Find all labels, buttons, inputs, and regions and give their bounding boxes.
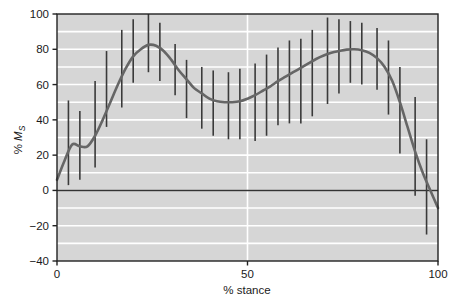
y-tick-label: −40: [29, 255, 49, 267]
figure-container: −40−20020406080100 050100 % stance % MS: [0, 0, 457, 303]
y-tick-label: −20: [29, 220, 49, 232]
y-axis-tick-labels: −40−20020406080100: [29, 8, 49, 267]
y-tick-label: 20: [36, 149, 49, 161]
y-tick-label: 60: [36, 79, 49, 91]
y-tick-label: 80: [36, 43, 49, 55]
x-tick-label: 50: [241, 268, 254, 280]
y-axis-title-symbol: M: [12, 131, 24, 141]
y-axis-title-prefix: %: [12, 141, 24, 154]
y-axis-title-subscript: S: [17, 125, 27, 131]
x-axis-title: % stance: [223, 284, 270, 296]
chart-canvas: −40−20020406080100 050100 % stance % MS: [0, 0, 457, 303]
y-tick-label: 0: [43, 184, 49, 196]
x-tick-label: 0: [54, 268, 60, 280]
y-axis-title: % MS: [12, 125, 27, 154]
svg-text:% MS: % MS: [12, 125, 27, 154]
x-axis-tick-labels: 050100: [54, 268, 448, 280]
x-tick-label: 100: [428, 268, 447, 280]
y-tick-label: 40: [36, 114, 49, 126]
y-tick-label: 100: [30, 8, 49, 20]
